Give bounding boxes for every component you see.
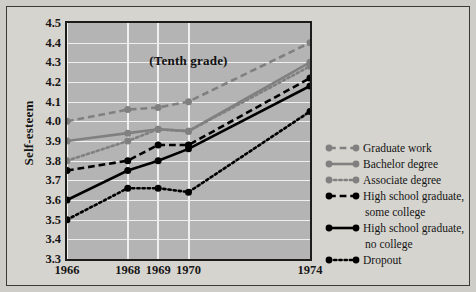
legend-label: High school graduate, xyxy=(361,221,464,235)
series-line xyxy=(67,78,310,170)
x-tick-label: 1974 xyxy=(298,263,323,278)
legend-swatch-icon xyxy=(325,253,361,267)
data-point-marker xyxy=(155,126,162,133)
y-tick-label: 3.6 xyxy=(45,193,61,208)
y-tick-label: 4.1 xyxy=(45,94,61,109)
y-tick-label: 4.5 xyxy=(45,16,61,31)
y-tick-label: 3.7 xyxy=(45,173,61,188)
data-point-marker xyxy=(155,185,162,192)
y-tick-label: 4.3 xyxy=(45,55,61,70)
legend-label: Associate degree xyxy=(361,173,441,187)
chart-figure: Self-esteem 4.54.44.34.24.14.03.93.83.73… xyxy=(6,6,470,286)
legend-item-1[interactable]: Graduate work xyxy=(325,141,467,157)
chart-legend: Graduate workBachelor degreeAssociate de… xyxy=(325,141,467,269)
data-point-marker xyxy=(124,138,131,145)
y-tick-label: 4.2 xyxy=(45,75,61,90)
data-point-marker xyxy=(124,185,131,192)
y-tick-label: 3.4 xyxy=(45,232,61,247)
data-point-marker xyxy=(124,130,131,137)
y-axis-tick-labels: 4.54.44.34.24.14.03.93.83.73.63.53.43.3 xyxy=(27,15,61,267)
data-point-marker xyxy=(124,106,131,113)
y-tick-label: 3.8 xyxy=(45,153,61,168)
legend-label: Bachelor degree xyxy=(361,157,438,171)
plot-area: (Tenth grade) xyxy=(65,21,312,261)
series-svg xyxy=(67,23,310,259)
legend-label-continuation: some college xyxy=(325,205,467,221)
x-tick-label: 1966 xyxy=(55,263,80,278)
x-axis-tick-labels: 19661968196919701974 xyxy=(65,263,312,283)
data-point-marker xyxy=(155,104,162,111)
legend-swatch-icon xyxy=(325,221,361,235)
legend-item-5[interactable]: High school graduate, xyxy=(325,221,467,237)
data-point-marker xyxy=(155,141,162,148)
legend-item-4[interactable]: High school graduate, xyxy=(325,189,467,205)
series-lines-container xyxy=(67,23,310,259)
data-point-marker xyxy=(185,98,192,105)
legend-item-3[interactable]: Associate degree xyxy=(325,173,467,189)
x-tick-label: 1969 xyxy=(146,263,171,278)
series-4 xyxy=(67,75,310,174)
legend-swatch-icon xyxy=(325,141,361,155)
legend-label: Dropout xyxy=(361,253,401,267)
legend-swatch-icon xyxy=(325,157,361,171)
data-point-marker xyxy=(307,39,311,46)
data-point-marker xyxy=(67,216,71,223)
y-tick-label: 4.0 xyxy=(45,114,61,129)
y-tick-label: 3.9 xyxy=(45,134,61,149)
data-point-marker xyxy=(67,167,71,174)
legend-label: Graduate work xyxy=(361,141,432,155)
x-tick-label: 1970 xyxy=(176,263,201,278)
data-point-marker xyxy=(185,128,192,135)
x-tick-label: 1968 xyxy=(115,263,140,278)
legend-swatch-icon xyxy=(325,173,361,187)
legend-swatch-icon xyxy=(325,189,361,203)
data-point-marker xyxy=(185,189,192,196)
data-point-marker xyxy=(67,157,71,164)
legend-label: High school graduate, xyxy=(361,189,464,203)
legend-item-6[interactable]: Dropout xyxy=(325,253,467,269)
data-point-marker xyxy=(124,167,131,174)
y-tick-label: 4.4 xyxy=(45,35,61,50)
legend-item-2[interactable]: Bachelor degree xyxy=(325,157,467,173)
data-point-marker xyxy=(155,157,162,164)
data-point-marker xyxy=(67,138,71,145)
data-point-marker xyxy=(124,157,131,164)
y-tick-label: 3.5 xyxy=(45,212,61,227)
data-point-marker xyxy=(67,118,71,125)
legend-label-continuation: no college xyxy=(325,237,467,253)
data-point-marker xyxy=(185,145,192,152)
